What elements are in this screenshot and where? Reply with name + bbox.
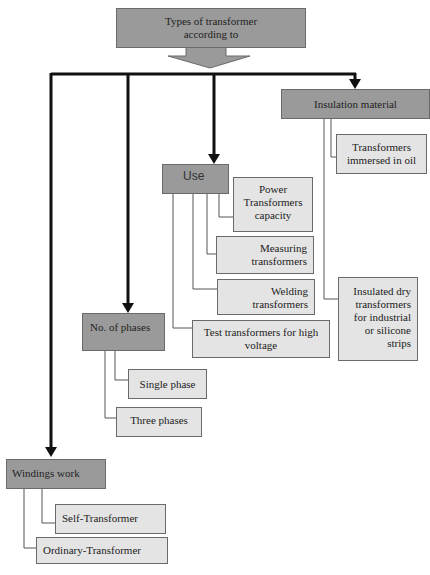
arrow-down-icon bbox=[349, 79, 361, 89]
node-ordinary-transformer: Ordinary-Transformer bbox=[36, 537, 168, 564]
category-use: Use bbox=[162, 164, 229, 194]
category-windings-work: Windings work bbox=[6, 459, 106, 489]
node-measuring-transformers: Measuring transformers bbox=[216, 236, 314, 274]
category-insulation-material: Insulation material bbox=[281, 89, 430, 119]
node-welding-transformers: Welding transformers bbox=[217, 279, 315, 315]
node-single-phase: Single phase bbox=[128, 369, 207, 399]
node-insulated-dry-transformers: Insulated dry transformers for industria… bbox=[338, 277, 418, 361]
arrow-down-icon bbox=[208, 154, 220, 164]
root-down-arrow-icon bbox=[168, 47, 250, 68]
node-three-phases: Three phases bbox=[116, 407, 202, 437]
node-transformers-immersed-in-oil: Transformers immersed in oil bbox=[336, 134, 427, 174]
root-title-line-1: Types of transformer bbox=[117, 15, 305, 28]
node-power-transformers-capacity: Power Transformers capacity bbox=[233, 177, 313, 232]
category-no-of-phases: No. of phases bbox=[82, 313, 165, 351]
arrow-down-icon bbox=[45, 447, 57, 457]
root-title-line-2: according to bbox=[117, 28, 305, 41]
arrow-down-icon bbox=[122, 303, 134, 313]
node-test-transformers-high-voltage: Test transformers for high voltage bbox=[192, 320, 330, 358]
root-box: Types of transformer according to bbox=[116, 8, 306, 48]
node-self-transformer: Self-Transformer bbox=[55, 504, 166, 534]
